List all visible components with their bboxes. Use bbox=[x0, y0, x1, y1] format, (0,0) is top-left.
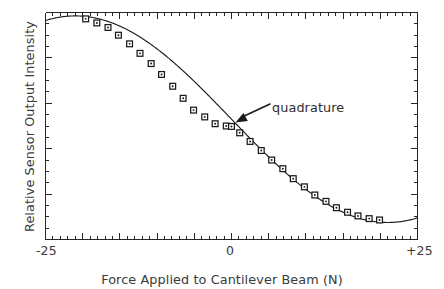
quadrature-arrow bbox=[236, 104, 271, 123]
chart-plot-area bbox=[0, 0, 444, 289]
x-axis-tick-label-mid: 0 bbox=[226, 243, 234, 258]
figure-canvas: -25 0 +25 Force Applied to Cantilever Be… bbox=[0, 0, 444, 289]
x-axis-title: Force Applied to Cantilever Beam (N) bbox=[0, 272, 444, 287]
quadrature-annotation-label: quadrature bbox=[272, 100, 344, 115]
data-markers bbox=[83, 16, 383, 223]
x-axis-tick-label-min: -25 bbox=[36, 243, 57, 258]
data-curve bbox=[46, 16, 418, 223]
x-axis-tick-label-max: +25 bbox=[406, 243, 433, 258]
y-axis-title: Relative Sensor Output Intensity bbox=[22, 12, 37, 242]
